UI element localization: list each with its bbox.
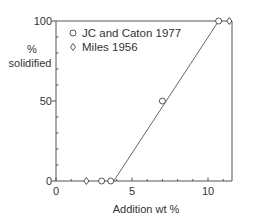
data-point-circle bbox=[108, 178, 114, 184]
y-ticks bbox=[52, 21, 59, 181]
data-point-circle bbox=[216, 18, 222, 24]
y-tick-label-50: 50 bbox=[40, 95, 52, 107]
x-tick-label-5: 5 bbox=[129, 185, 135, 197]
y-tick-label-0: 0 bbox=[46, 175, 52, 187]
data-point-circle bbox=[159, 98, 165, 104]
legend-diamond-icon bbox=[71, 44, 76, 51]
legend-circle-icon bbox=[70, 30, 76, 36]
y-axis-label-line2: solidified bbox=[9, 57, 52, 69]
x-tick-label-0: 0 bbox=[53, 185, 59, 197]
x-tick-label-10: 10 bbox=[202, 185, 214, 197]
x-axis-label: Addition wt % bbox=[113, 203, 180, 215]
legend-label-miles: Miles 1956 bbox=[82, 41, 138, 53]
y-axis-label-line1: % bbox=[27, 43, 37, 55]
data-point-diamond bbox=[227, 18, 232, 25]
data-point-circle bbox=[99, 178, 105, 184]
legend-label-jc-caton: JC and Caton 1977 bbox=[82, 27, 181, 39]
data-point-diamond bbox=[84, 178, 89, 185]
x-ticks bbox=[56, 178, 223, 182]
chart: 100 50 0 0 5 10 % solidified Addition wt… bbox=[0, 0, 255, 222]
y-tick-label-100: 100 bbox=[34, 15, 52, 27]
legend: JC and Caton 1977 Miles 1956 bbox=[70, 27, 181, 53]
